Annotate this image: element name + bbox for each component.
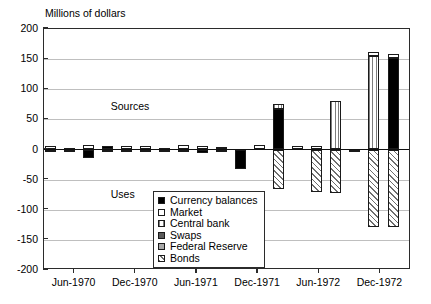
legend-swatch-icon [158, 232, 165, 239]
legend-item[interactable]: Currency balances [158, 195, 258, 207]
y-axis-tick [43, 148, 48, 149]
bar-segment [330, 150, 341, 193]
bar-segment [368, 150, 379, 227]
plot-annotation: Sources [111, 100, 150, 112]
gridline [44, 119, 409, 120]
y-axis-tick [43, 88, 48, 89]
bar-segment [368, 56, 379, 149]
bar-segment [273, 150, 284, 189]
y-axis-tick [43, 208, 48, 209]
bar-chart: Millions of dollars 200150100500-50-100-… [0, 0, 431, 304]
legend-label: Federal Reserve [170, 241, 248, 253]
bar-segment [388, 54, 399, 58]
y-axis-label: -50 [2, 174, 38, 184]
zero-line [44, 149, 409, 151]
legend-label: Currency balances [170, 195, 258, 207]
y-axis-tick [43, 268, 48, 269]
bar-segment [273, 104, 284, 109]
y-axis-tick [43, 178, 48, 179]
bar-segment [330, 101, 341, 149]
bar-segment [388, 150, 399, 227]
gridline [44, 180, 409, 181]
x-axis-label: Jun-1971 [174, 276, 218, 288]
bar-segment [368, 52, 379, 56]
legend-label: Bonds [170, 253, 200, 265]
y-axis-label: 50 [2, 113, 38, 123]
x-axis-tick [318, 269, 319, 273]
gridline [44, 59, 409, 60]
legend-swatch-icon [158, 209, 165, 216]
plot-annotation: Uses [111, 188, 135, 200]
y-axis-tick [43, 238, 48, 239]
y-axis-label: -200 [2, 264, 38, 274]
bar-segment [273, 109, 284, 150]
legend-item[interactable]: Federal Reserve [158, 241, 258, 253]
y-axis-title: Millions of dollars [45, 7, 126, 19]
y-axis-label: 200 [2, 23, 38, 33]
gridline [44, 89, 409, 90]
y-axis-label: 100 [2, 83, 38, 93]
y-axis-label: -100 [2, 204, 38, 214]
legend-swatch-icon [158, 197, 165, 204]
y-axis-tick [43, 27, 48, 28]
x-axis-label: Jun-1970 [52, 276, 96, 288]
bar-segment [235, 150, 246, 169]
bar-segment [83, 150, 94, 158]
legend-item[interactable]: Central bank [158, 218, 258, 230]
x-axis-label: Dec-1972 [357, 276, 403, 288]
y-axis-label: -150 [2, 234, 38, 244]
x-axis-label: Dec-1971 [234, 276, 280, 288]
x-axis-label: Jun-1972 [296, 276, 340, 288]
chart-legend: Currency balancesMarketCentral bankSwaps… [153, 191, 265, 268]
y-axis-label: 150 [2, 53, 38, 63]
x-axis-tick [73, 269, 74, 273]
x-axis-tick [256, 269, 257, 273]
y-axis-tick [43, 118, 48, 119]
y-axis-label: 0 [2, 144, 38, 154]
legend-item[interactable]: Bonds [158, 253, 258, 265]
x-axis-tick [134, 269, 135, 273]
bar-segment [388, 58, 399, 150]
bar-segment [311, 150, 322, 192]
x-axis-tick [195, 269, 196, 273]
legend-label: Central bank [170, 218, 230, 230]
legend-swatch-icon [158, 243, 165, 250]
legend-swatch-icon [158, 220, 165, 227]
x-axis-label: Dec-1970 [112, 276, 158, 288]
y-axis-tick [43, 58, 48, 59]
legend-swatch-icon [158, 255, 165, 262]
x-axis-tick [379, 269, 380, 273]
